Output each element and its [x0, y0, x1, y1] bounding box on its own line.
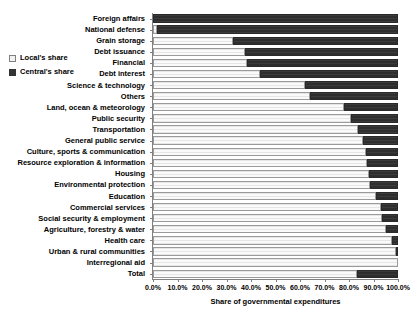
- bar-segment-locals-share: [153, 270, 357, 278]
- x-axis-tick-label: 50.0%: [266, 284, 286, 291]
- bar-row: [153, 202, 398, 213]
- bar-segment-centrals-share: [351, 114, 398, 122]
- bar-segment-centrals-share: [370, 181, 398, 189]
- bar-row: [153, 235, 398, 246]
- bar-row: [153, 13, 398, 24]
- x-axis-tick-label: 90.0%: [364, 284, 384, 291]
- bar-segment-locals-share: [153, 59, 247, 67]
- bar-segment-locals-share: [153, 103, 344, 111]
- x-axis-tick: [227, 279, 228, 282]
- category-label: Commercial services: [0, 202, 150, 213]
- category-label: Environmental protection: [0, 179, 150, 190]
- bar-row: [153, 102, 398, 113]
- category-label: Debt interest: [0, 68, 150, 79]
- category-axis-labels: Foreign affairsNational defenseGrain sto…: [0, 13, 150, 279]
- category-label: Agriculture, forestry & water: [0, 224, 150, 235]
- stacked-bar: [153, 70, 398, 78]
- bar-row: [153, 80, 398, 91]
- bar-segment-locals-share: [153, 148, 366, 156]
- bar-segment-centrals-share: [344, 103, 398, 111]
- bar-row: [153, 213, 398, 224]
- x-axis-tick: [300, 279, 301, 282]
- bar-segment-centrals-share: [310, 92, 398, 100]
- x-axis-tick: [251, 279, 252, 282]
- category-label: Social security & employment: [0, 213, 150, 224]
- x-axis-tick: [202, 279, 203, 282]
- bar-segment-locals-share: [153, 81, 305, 89]
- stacked-bar: [153, 214, 398, 222]
- x-axis-tick-label: 20.0%: [192, 284, 212, 291]
- bar-segment-locals-share: [153, 159, 367, 167]
- stacked-bar: [153, 125, 398, 133]
- bar-segment-centrals-share: [357, 270, 398, 278]
- category-label: Public security: [0, 113, 150, 124]
- bar-segment-centrals-share: [260, 70, 398, 78]
- bar-segment-centrals-share: [153, 14, 398, 22]
- category-label: Land, ocean & meteorology: [0, 102, 150, 113]
- stacked-bar: [153, 225, 398, 233]
- x-axis-tick: [374, 279, 375, 282]
- bar-row: [153, 191, 398, 202]
- bar-segment-locals-share: [153, 92, 310, 100]
- x-axis-title: Share of governmental expenditures: [153, 297, 398, 306]
- bar-row: [153, 135, 398, 146]
- category-label: Science & technology: [0, 80, 150, 91]
- category-label: Debt issuance: [0, 46, 150, 57]
- bar-row: [153, 224, 398, 235]
- bar-row: [153, 68, 398, 79]
- stacked-bar: [153, 59, 398, 67]
- category-label: Health care: [0, 235, 150, 246]
- bar-row: [153, 57, 398, 68]
- bar-row: [153, 168, 398, 179]
- bar-segment-locals-share: [153, 37, 233, 45]
- bar-segment-locals-share: [153, 214, 382, 222]
- x-axis-tick-label: 60.0%: [290, 284, 310, 291]
- x-axis-tick: [349, 279, 350, 282]
- stacked-bar: [153, 236, 398, 244]
- stacked-bar: [153, 203, 398, 211]
- bar-segment-centrals-share: [366, 148, 398, 156]
- stacked-bar: [153, 181, 398, 189]
- x-axis-tick: [178, 279, 179, 282]
- stacked-bar: [153, 136, 398, 144]
- category-label: Grain storage: [0, 35, 150, 46]
- bar-segment-locals-share: [153, 225, 386, 233]
- bar-row: [153, 179, 398, 190]
- category-label: Total: [0, 268, 150, 279]
- bar-segment-centrals-share: [396, 247, 398, 255]
- bar-row: [153, 257, 398, 268]
- x-axis-tick: [153, 279, 154, 282]
- plot-area: [153, 13, 398, 279]
- stacked-bar: [153, 270, 398, 278]
- stacked-bar: [153, 192, 398, 200]
- stacked-bar: [153, 103, 398, 111]
- x-axis-tick: [276, 279, 277, 282]
- bar-row: [153, 268, 398, 279]
- bar-segment-locals-share: [153, 236, 392, 244]
- category-label: Financial: [0, 57, 150, 68]
- category-label: Foreign affairs: [0, 13, 150, 24]
- stacked-bar: [153, 92, 398, 100]
- bar-segment-locals-share: [153, 136, 363, 144]
- bar-row: [153, 91, 398, 102]
- bar-segment-locals-share: [153, 247, 396, 255]
- category-label: Resource exploration & information: [0, 157, 150, 168]
- bar-segment-locals-share: [153, 114, 351, 122]
- bar-segment-centrals-share: [358, 125, 398, 133]
- x-axis-tick-label: 80.0%: [339, 284, 359, 291]
- bar-segment-centrals-share: [376, 192, 398, 200]
- stacked-bar: [153, 81, 398, 89]
- category-label: Education: [0, 191, 150, 202]
- bar-row: [153, 146, 398, 157]
- bar-segment-locals-share: [153, 70, 260, 78]
- bar-row: [153, 124, 398, 135]
- x-axis-tick-label: 100.0%: [386, 284, 410, 291]
- category-label: Culture, sports & communication: [0, 146, 150, 157]
- stacked-bar: [153, 48, 398, 56]
- stacked-bar: [153, 148, 398, 156]
- stacked-bar: [153, 159, 398, 167]
- x-axis-tick: [325, 279, 326, 282]
- bar-segment-locals-share: [153, 170, 369, 178]
- x-axis-tick-label: 30.0%: [217, 284, 237, 291]
- bar-row: [153, 46, 398, 57]
